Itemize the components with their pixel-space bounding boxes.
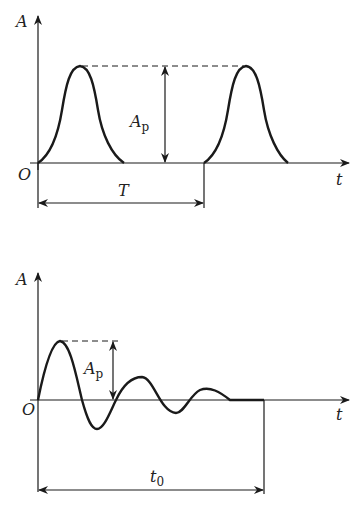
origin-label: O xyxy=(18,165,31,184)
pulse-1 xyxy=(38,66,124,163)
diagram-canvas: A O t T Ap A O t Ap t0 xyxy=(0,0,361,514)
duration-label: t0 xyxy=(150,467,164,489)
origin-label: O xyxy=(22,400,35,419)
period-label: T xyxy=(118,181,130,200)
y-axis-label: A xyxy=(14,12,28,31)
damped-oscillation-diagram: A O t Ap t0 xyxy=(14,270,349,494)
y-axis-label: A xyxy=(14,270,28,289)
amplitude-label: Ap xyxy=(128,112,150,134)
x-axis-label: t xyxy=(336,405,343,424)
pulse-2 xyxy=(204,66,288,163)
x-axis-label: t xyxy=(336,170,343,189)
amplitude-label: Ap xyxy=(82,359,104,381)
periodic-pulse-diagram: A O t T Ap xyxy=(14,12,349,208)
damped-wave xyxy=(38,341,264,429)
